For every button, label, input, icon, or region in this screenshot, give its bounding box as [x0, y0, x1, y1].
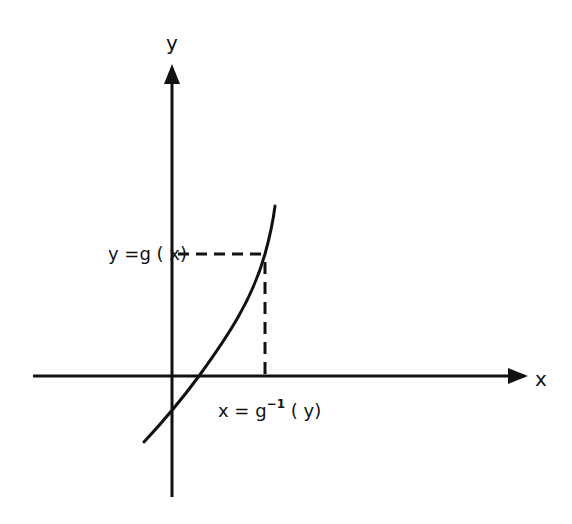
x-equals-g-inverse-of-y-label: x = g−1 ( y) — [218, 400, 321, 420]
x-value-prefix: x = g — [218, 400, 267, 421]
x-axis-arrowhead-icon — [508, 368, 528, 384]
y-equals-g-of-x-label: y =g ( x) — [108, 245, 187, 263]
y-axis-arrowhead-icon — [164, 64, 180, 84]
x-value-suffix: ( y) — [285, 400, 321, 421]
inverse-superscript: −1 — [267, 397, 285, 411]
inverse-function-diagram — [0, 0, 572, 524]
y-axis-label: y — [166, 33, 178, 53]
x-axis-label: x — [535, 369, 547, 389]
